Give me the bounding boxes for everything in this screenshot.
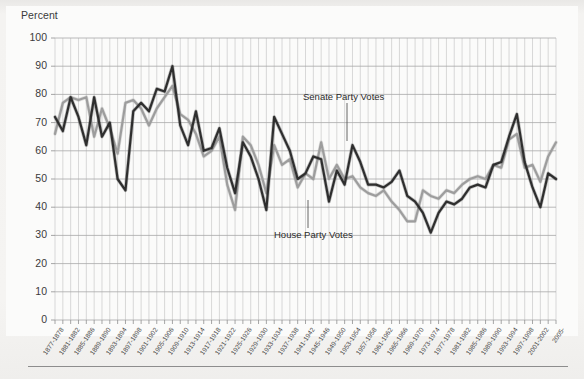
house-series-annotation: House Party Votes: [274, 229, 353, 240]
y-axis-title: Percent: [21, 9, 58, 21]
bottom-divider: [28, 366, 568, 367]
y-axis-tick-label: 70: [17, 116, 47, 128]
y-axis-tick-label: 20: [17, 257, 47, 269]
chart-figure: Percent 0102030405060708090100 1877-1878…: [0, 0, 584, 379]
y-axis-tick-label: 100: [17, 31, 47, 43]
y-axis-ticks: [51, 38, 55, 320]
senate-series-annotation: Senate Party Votes: [303, 91, 384, 102]
y-axis-tick-label: 50: [17, 172, 47, 184]
y-axis-tick-label: 0: [17, 313, 47, 325]
x-axis-ticks: [55, 320, 556, 324]
y-axis-tick-label: 80: [17, 87, 47, 99]
y-axis-tick-label: 10: [17, 285, 47, 297]
y-axis-tick-label: 60: [17, 144, 47, 156]
line-chart: [0, 0, 584, 379]
y-axis-tick-label: 90: [17, 59, 47, 71]
y-axis-tick-label: 40: [17, 200, 47, 212]
y-axis-tick-label: 30: [17, 228, 47, 240]
